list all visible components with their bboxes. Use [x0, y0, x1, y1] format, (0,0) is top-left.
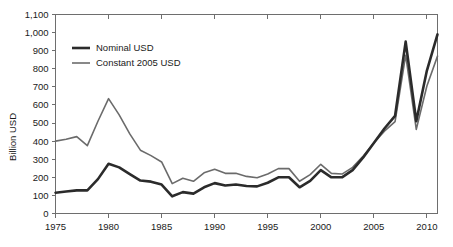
y-tick-label: 600: [33, 99, 49, 110]
y-tick-label: 1,100: [25, 9, 49, 20]
x-tick-label: 1980: [98, 221, 119, 232]
line-chart: 01002003004005006007008009001,0001,100 1…: [0, 0, 453, 247]
y-tick-label: 700: [33, 81, 49, 92]
x-tick-label: 1985: [151, 221, 172, 232]
x-tick-label: 2000: [310, 221, 331, 232]
y-tick-label: 1,000: [25, 27, 49, 38]
y-tick-label: 200: [33, 172, 49, 183]
y-axis-title: Billion USD: [7, 113, 18, 161]
y-tick-label: 0: [43, 208, 48, 219]
legend-label-2: Constant 2005 USD: [96, 57, 181, 68]
y-tick-label: 500: [33, 117, 49, 128]
y-tick-label: 300: [33, 154, 49, 165]
chart-background: [0, 0, 453, 247]
x-tick-label: 1995: [257, 221, 278, 232]
x-tick-label: 2010: [416, 221, 437, 232]
chart-figure: 01002003004005006007008009001,0001,100 1…: [0, 0, 453, 247]
x-tick-label: 2005: [363, 221, 384, 232]
y-tick-label: 100: [33, 190, 49, 201]
y-tick-label: 400: [33, 136, 49, 147]
x-tick-label: 1990: [204, 221, 225, 232]
y-tick-label: 800: [33, 63, 49, 74]
x-tick-label: 1975: [45, 221, 66, 232]
y-axis-title-group: Billion USD: [7, 113, 18, 161]
y-tick-label: 900: [33, 45, 49, 56]
legend-label-1: Nominal USD: [96, 42, 154, 53]
